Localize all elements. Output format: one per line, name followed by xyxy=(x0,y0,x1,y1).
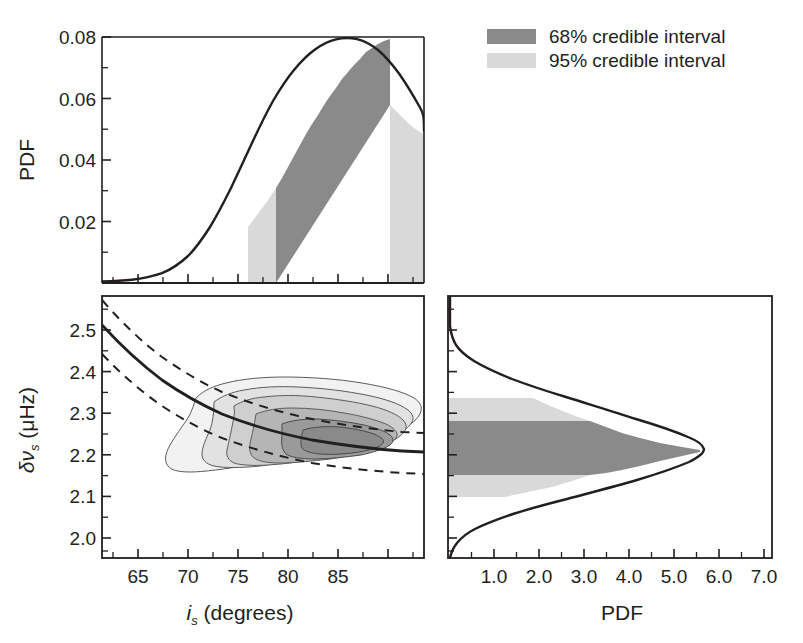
joint-xtick-label-2: 75 xyxy=(227,566,248,587)
figure-svg: 0.08 0.06 0.04 0.02 PDF xyxy=(0,0,803,643)
figure-root: 0.08 0.06 0.04 0.02 PDF xyxy=(0,0,803,643)
top-pdf-shading xyxy=(248,39,424,283)
contour-density xyxy=(166,377,422,472)
right-95-band-upper xyxy=(448,398,590,421)
right-xtick-label-5: 6.0 xyxy=(706,566,732,587)
right-xtick-label-1: 2.0 xyxy=(526,566,552,587)
right-panel-x-minor-ticks xyxy=(472,552,742,558)
top-95-band-left xyxy=(248,188,276,283)
right-panel-x-ticks xyxy=(494,549,764,558)
right-xtick-label-2: 3.0 xyxy=(571,566,597,587)
right-68-band xyxy=(448,421,700,475)
top-68-band xyxy=(276,39,390,283)
joint-xtick-label-1: 70 xyxy=(177,566,198,587)
legend-swatch-95 xyxy=(487,53,536,68)
joint-ytick-label-3: 2.3 xyxy=(70,403,96,424)
joint-panel-ylabel: δνs (μHz) xyxy=(15,387,42,473)
joint-xtick-label-3: 80 xyxy=(277,566,298,587)
joint-xtick-label-0: 65 xyxy=(127,566,148,587)
top-panel-ylabel: PDF xyxy=(15,139,38,181)
joint-ytick-label-1: 2.1 xyxy=(70,486,96,507)
legend-swatch-68 xyxy=(487,29,536,44)
right-xtick-label-6: 7.0 xyxy=(751,566,777,587)
right-marginal-pdf-panel: 1.0 2.0 3.0 4.0 5.0 6.0 7.0 PDF xyxy=(448,296,777,624)
legend: 68% credible interval 95% credible inter… xyxy=(487,26,725,71)
joint-ytick-label-4: 2.4 xyxy=(70,362,97,383)
right-xtick-label-3: 4.0 xyxy=(616,566,642,587)
joint-ytick-label-0: 2.0 xyxy=(70,528,96,549)
right-pdf-shading xyxy=(448,398,700,497)
top-ytick-label-0: 0.08 xyxy=(59,27,96,48)
top-ytick-label-2: 0.04 xyxy=(59,150,96,171)
joint-contour-panel: 2.0 2.1 2.2 2.3 2.4 2.5 65 70 75 80 85 i… xyxy=(15,296,424,628)
right-panel-xlabel: PDF xyxy=(601,601,643,624)
right-xtick-label-0: 1.0 xyxy=(481,566,507,587)
top-marginal-pdf-panel: 0.08 0.06 0.04 0.02 PDF xyxy=(15,27,424,283)
right-xtick-label-4: 5.0 xyxy=(661,566,687,587)
legend-label-95: 95% credible interval xyxy=(549,50,725,71)
joint-ytick-label-5: 2.5 xyxy=(70,320,96,341)
joint-xtick-label-4: 85 xyxy=(327,566,348,587)
right-95-band-lower xyxy=(448,475,590,497)
top-95-band-right xyxy=(390,105,424,283)
joint-ytick-label-2: 2.2 xyxy=(70,445,96,466)
top-ytick-label-1: 0.06 xyxy=(59,89,96,110)
legend-label-68: 68% credible interval xyxy=(549,26,725,47)
joint-panel-xlabel: is (degrees) xyxy=(187,601,294,628)
top-ytick-label-3: 0.02 xyxy=(59,212,96,233)
joint-panel-x-minor-ticks xyxy=(113,552,413,558)
